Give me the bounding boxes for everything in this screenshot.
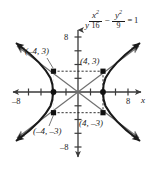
y-axis-label: y [85, 21, 89, 30]
vertex-right [100, 89, 106, 95]
hyperbola-figure: x2 16 − y2 9 = 1 y x –8 8 8 –8 (–4, 3) (… [0, 0, 153, 169]
y-tick-label-neg8: –8 [60, 143, 69, 152]
leader-neg4-neg3 [49, 115, 54, 126]
x-axis-label: x [141, 96, 145, 105]
point-label-neg4-3: (–4, 3) [25, 47, 49, 56]
point-label-neg4-neg3: (–4, –3) [33, 127, 62, 136]
equation-equals-sign: = [128, 15, 133, 25]
x-tick-label-neg8: –8 [12, 97, 21, 106]
hyperbola-equation: x2 16 − y2 9 = 1 [88, 9, 138, 30]
equation-term-y: y2 9 [112, 9, 125, 30]
point-label-4-neg3: (4, –3) [79, 119, 103, 128]
x-tick-label-8: 8 [126, 97, 130, 106]
point-4-3 [100, 69, 105, 74]
equation-term-x: x2 16 [89, 9, 102, 30]
point-4-neg3 [100, 110, 105, 115]
equation-right-side: 1 [134, 15, 138, 25]
asymptote-positive-slope-upper [78, 46, 139, 92]
y-tick-label-8: 8 [64, 33, 68, 42]
equation-minus-operator: − [105, 15, 110, 25]
point-neg4-neg3 [51, 110, 56, 115]
vertex-left [51, 89, 57, 95]
leader-neg4-3 [47, 58, 53, 68]
point-neg4-3 [51, 69, 56, 74]
point-label-4-3: (4, 3) [80, 57, 100, 66]
